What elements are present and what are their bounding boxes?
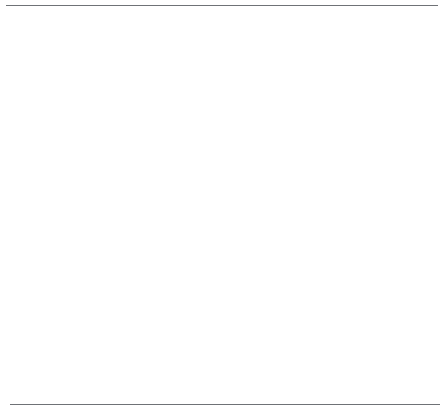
top-divider-rule [6, 5, 438, 6]
bottom-divider-rule [10, 404, 440, 405]
stacked-bar-chart-figure [0, 0, 440, 414]
